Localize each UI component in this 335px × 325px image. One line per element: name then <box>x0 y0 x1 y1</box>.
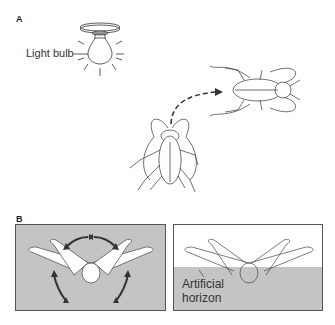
escape-path-arrow <box>171 92 215 124</box>
panel-b-label: B <box>16 214 23 224</box>
panel-b-left-frame <box>15 224 166 311</box>
cockroach-ground-icon <box>130 119 198 192</box>
panel-b-right-frame: Artificial horizon <box>173 224 323 311</box>
moth-flapping-illustration <box>16 225 166 311</box>
cockroach-flying-icon <box>210 66 300 116</box>
horizon-label-line1: Artificial <box>182 277 224 291</box>
horizon-label-line2: horizon <box>182 291 221 305</box>
light-bulb-icon <box>78 23 124 76</box>
